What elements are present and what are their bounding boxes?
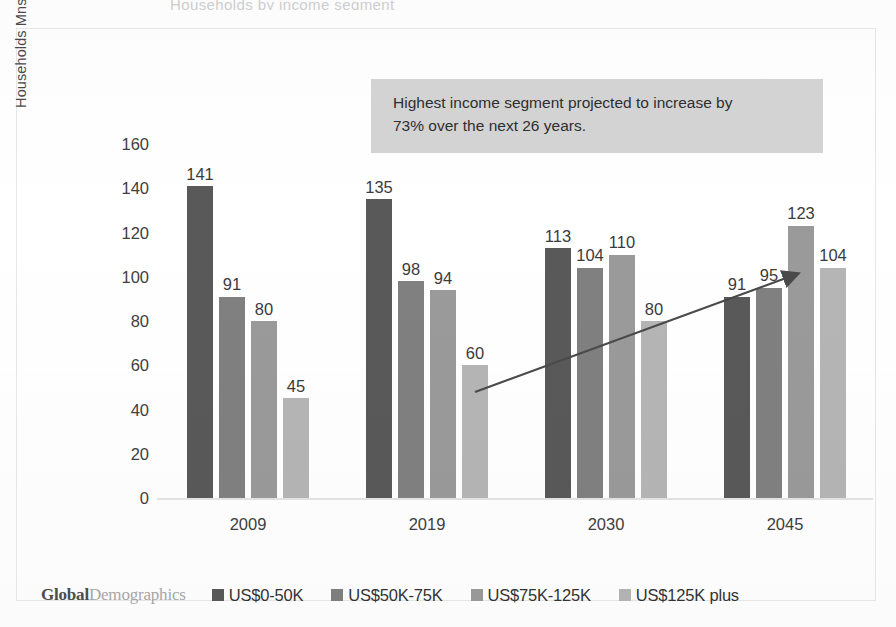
- callout-line-2: 73% over the next 26 years.: [393, 114, 803, 137]
- callout-annotation: Highest income segment projected to incr…: [371, 79, 823, 153]
- legend-item-2[interactable]: US$75K-125K: [471, 586, 591, 605]
- x-axis-category-labels: 2009201920302045: [157, 505, 873, 539]
- bar: [398, 281, 424, 498]
- y-axis-tick: 0: [89, 490, 149, 507]
- y-axis-tick-labels: 160140120100806040200: [89, 29, 149, 602]
- y-axis-tick: 140: [89, 180, 149, 197]
- y-axis-title: Households Mns In income segment: [13, 0, 35, 169]
- bar: [430, 290, 456, 498]
- y-axis-tick: 120: [89, 224, 149, 241]
- brand-secondary-text: Demographics: [89, 585, 186, 604]
- legend-item-0[interactable]: US$0-50K: [212, 586, 304, 605]
- x-axis-line: [157, 498, 873, 500]
- bar-value-label: 123: [774, 205, 828, 222]
- bar: [462, 365, 488, 498]
- legend-item-1[interactable]: US$50K-75K: [331, 586, 442, 605]
- bar-value-label: 45: [269, 378, 323, 395]
- bar-value-label: 104: [806, 247, 860, 264]
- bar-value-label: 94: [416, 270, 470, 287]
- bar: [366, 199, 392, 498]
- legend-items: US$0-50KUS$50K-75KUS$75K-125KUS$125K plu…: [212, 586, 767, 605]
- bar: [577, 268, 603, 498]
- bar-group-2045: 9195123104: [694, 144, 873, 498]
- legend-label: US$0-50K: [229, 586, 304, 605]
- chart-screenshot: { "title_remnant": "Households by income…: [0, 0, 896, 627]
- bar: [609, 255, 635, 498]
- chart-legend: GlobalDemographics US$0-50KUS$50K-75KUS$…: [41, 578, 886, 612]
- y-axis-tick: 80: [89, 313, 149, 330]
- brand-logo: GlobalDemographics: [41, 585, 186, 605]
- bar: [788, 226, 814, 498]
- bar-value-label: 141: [173, 166, 227, 183]
- bar: [820, 268, 846, 498]
- bar: [219, 297, 245, 498]
- clipped-title-remnant: Households by income segment: [170, 0, 730, 10]
- legend-label: US$75K-125K: [488, 586, 591, 605]
- bar-group-2009: 141918045: [157, 144, 336, 498]
- bar: [641, 321, 667, 498]
- x-axis-label-2009: 2009: [188, 515, 308, 534]
- legend-item-3[interactable]: US$125K plus: [619, 586, 739, 605]
- bar: [187, 186, 213, 498]
- y-axis-title-text: Households Mns In income segment: [13, 0, 29, 169]
- legend-label: US$50K-75K: [348, 586, 442, 605]
- x-axis-label-2030: 2030: [546, 515, 666, 534]
- chart-frame: Households Mns In income segment 1601401…: [16, 28, 876, 601]
- legend-label: US$125K plus: [636, 586, 739, 605]
- x-axis-label-2019: 2019: [367, 515, 487, 534]
- y-axis-tick: 20: [89, 446, 149, 463]
- bar-value-label: 110: [595, 234, 649, 251]
- bar-value-label: 60: [448, 345, 502, 362]
- bar-value-label: 80: [237, 301, 291, 318]
- bar: [545, 248, 571, 498]
- callout-line-1: Highest income segment projected to incr…: [393, 91, 803, 114]
- bar: [251, 321, 277, 498]
- x-axis-label-2045: 2045: [725, 515, 845, 534]
- bar: [756, 288, 782, 498]
- y-axis-tick: 100: [89, 269, 149, 286]
- bar: [283, 398, 309, 498]
- y-axis-tick: 60: [89, 357, 149, 374]
- legend-swatch-0-50k: [212, 589, 224, 601]
- legend-swatch-75-125k: [471, 589, 483, 601]
- bar-value-label: 80: [627, 301, 681, 318]
- plot-area: 141918045135989460113104110809195123104: [157, 144, 873, 498]
- bar-group-2030: 11310411080: [515, 144, 694, 498]
- bar: [724, 297, 750, 498]
- y-axis-tick: 160: [89, 136, 149, 153]
- bar-value-label: 91: [205, 276, 259, 293]
- brand-primary-text: Global: [41, 585, 89, 604]
- legend-swatch-125k-plus: [619, 589, 631, 601]
- legend-swatch-50-75k: [331, 589, 343, 601]
- bar-value-label: 113: [531, 228, 585, 245]
- y-axis-tick: 40: [89, 401, 149, 418]
- bar-group-2019: 135989460: [336, 144, 515, 498]
- bar-value-label: 135: [352, 179, 406, 196]
